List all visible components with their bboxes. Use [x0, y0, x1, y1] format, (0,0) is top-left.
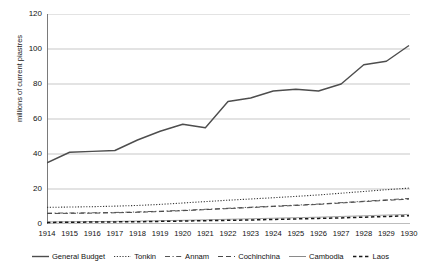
legend-swatch-dashdot: [165, 253, 182, 260]
x-axis-tick-label: 1929: [374, 229, 398, 238]
y-axis-tick-label: 120: [18, 10, 42, 18]
x-axis-tick-label: 1922: [216, 229, 240, 238]
y-axis-tick-label: 80: [18, 80, 42, 88]
x-axis-tick-label: 1927: [329, 229, 353, 238]
x-axis-tick-label: 1926: [307, 229, 331, 238]
x-axis-tick-label: 1924: [261, 229, 285, 238]
y-axis-tick-label: 40: [18, 150, 42, 158]
series-line: [47, 188, 409, 207]
legend-label: Tonkin: [134, 252, 156, 261]
legend-item-laos[interactable]: Laos: [353, 252, 389, 261]
x-axis-tick-label: 1920: [171, 229, 195, 238]
legend-item-tonkin[interactable]: Tonkin: [114, 252, 156, 261]
plot-area: [47, 14, 410, 224]
x-axis-tick-label: 1919: [148, 229, 172, 238]
y-axis-tick-label: 20: [18, 185, 42, 193]
line-chart: millions of current piastres 02040608010…: [0, 0, 421, 268]
x-axis-tick-label: 1925: [284, 229, 308, 238]
legend-item-cochinchina[interactable]: Cochinchina: [218, 252, 280, 261]
legend-label: Cambodia: [309, 252, 344, 261]
legend-label: Annam: [185, 252, 209, 261]
legend-swatch-solid: [289, 253, 306, 260]
y-axis-tick-label: 60: [18, 115, 42, 123]
y-axis-tick-label: 0: [18, 220, 42, 228]
x-axis-tick-labels: 1914191519161917191819191920192119221923…: [0, 229, 421, 241]
legend-label: General Budget: [52, 252, 105, 261]
x-axis-tick-label: 1921: [193, 229, 217, 238]
legend-swatch-solid: [32, 253, 49, 260]
legend-label: Laos: [373, 252, 389, 261]
legend-swatch-dashed: [218, 253, 235, 260]
series-line: [47, 198, 409, 213]
legend-item-cambodia[interactable]: Cambodia: [289, 252, 344, 261]
y-axis-tick-labels: 020406080100120: [14, 0, 42, 268]
legend-item-general-budget[interactable]: General Budget: [32, 252, 105, 261]
legend-item-annam[interactable]: Annam: [165, 252, 209, 261]
series-line: [47, 46, 409, 163]
x-axis-tick-label: 1914: [35, 229, 59, 238]
y-axis-tick-label: 100: [18, 45, 42, 53]
x-axis-tick-label: 1923: [239, 229, 263, 238]
legend-swatch-dashed-bold: [353, 253, 370, 260]
x-axis-tick-label: 1930: [397, 229, 421, 238]
x-axis-tick-label: 1917: [103, 229, 127, 238]
legend-swatch-dotted: [114, 253, 131, 260]
x-axis-tick-label: 1916: [80, 229, 104, 238]
chart-legend: General BudgetTonkinAnnamCochinchinaCamb…: [0, 249, 421, 263]
legend-label: Cochinchina: [238, 252, 280, 261]
x-axis-tick-label: 1915: [58, 229, 82, 238]
x-axis-tick-label: 1918: [126, 229, 150, 238]
x-axis-tick-label: 1928: [352, 229, 376, 238]
plot-svg: [47, 14, 410, 224]
